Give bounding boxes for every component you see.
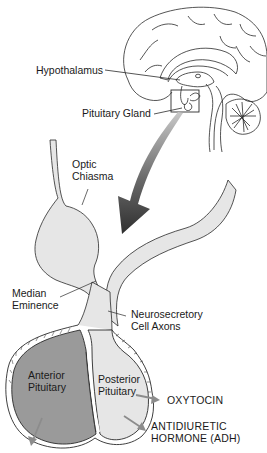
label-anterior-pituitary-line1: Anterior: [28, 369, 65, 381]
label-neurosecretory-line1: Neurosecretory: [131, 308, 203, 320]
label-pituitary-gland: Pituitary Gland: [82, 107, 151, 119]
label-anterior-pituitary-line2: Pituitary: [28, 381, 66, 393]
zoom-arrow-icon: [118, 112, 183, 234]
label-adh-line2: HORMONE (ADH): [151, 432, 241, 444]
label-adh-line1: ANTIDIURETIC: [151, 420, 227, 432]
label-optic-chiasma-line1: Optic: [72, 158, 97, 170]
label-median-eminence-line1: Median: [12, 287, 46, 299]
label-optic-chiasma-line2: Chiasma: [72, 170, 113, 182]
label-median-eminence-line2: Eminence: [12, 299, 59, 311]
label-neurosecretory-line2: Cell Axons: [131, 320, 181, 332]
brain-illustration: [124, 7, 267, 152]
label-hypothalamus: Hypothalamus: [36, 64, 103, 76]
label-oxytocin: OXYTOCIN: [167, 394, 223, 406]
label-posterior-pituitary-line1: Posterior: [98, 373, 140, 385]
label-posterior-pituitary-line2: Pituitary: [98, 385, 136, 397]
